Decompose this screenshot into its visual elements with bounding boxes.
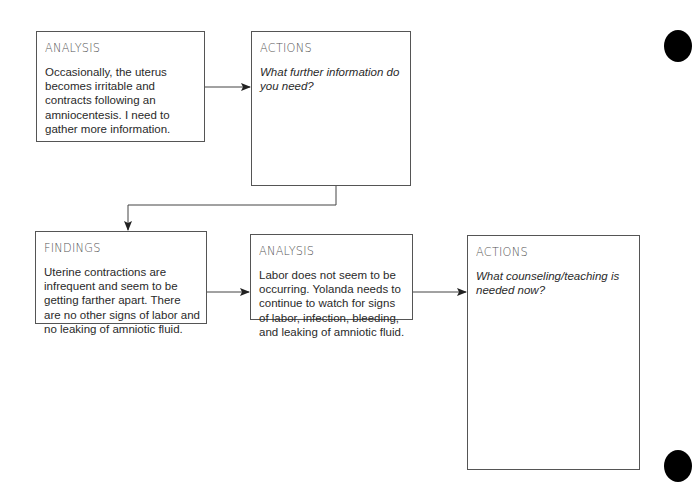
box-question: What counseling/teaching is needed now? [476, 269, 633, 297]
box-title: ACTIONS [476, 244, 528, 259]
findings-box-1: FINDINGS Uterine contractions are infreq… [35, 231, 207, 324]
box-title: FINDINGS [44, 240, 101, 255]
box-title: ANALYSIS [45, 40, 100, 55]
box-body: Occasionally, the uterus becomes irritab… [45, 65, 198, 136]
page-edge-tab-marker [664, 450, 692, 482]
box-body: Labor does not seem to be occurring. Yol… [259, 268, 406, 339]
arrow-actions1-to-findings1 [128, 185, 336, 230]
box-question: What further information do you need? [260, 65, 404, 93]
box-title: ANALYSIS [259, 243, 314, 258]
actions-box-1: ACTIONS What further information do you … [251, 31, 411, 186]
actions-box-2: ACTIONS What counseling/teaching is need… [467, 235, 640, 470]
box-title: ACTIONS [260, 40, 312, 55]
analysis-box-2: ANALYSIS Labor does not seem to be occur… [250, 234, 413, 320]
box-body: Uterine contractions are infrequent and … [44, 265, 200, 336]
page-edge-tab-marker [664, 30, 692, 62]
analysis-box-1: ANALYSIS Occasionally, the uterus become… [36, 31, 205, 142]
